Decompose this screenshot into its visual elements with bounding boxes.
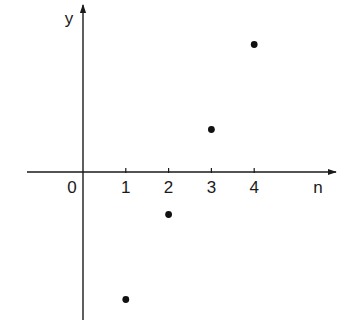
x-tick-label: 2 xyxy=(164,178,173,197)
x-axis-label: n xyxy=(313,178,322,197)
scatter-plot: 1234 0 n y xyxy=(0,0,341,332)
y-axis-label: y xyxy=(65,9,74,28)
x-tick-label: 1 xyxy=(121,178,130,197)
origin-label: 0 xyxy=(67,178,76,197)
data-point xyxy=(165,211,172,218)
data-point xyxy=(251,41,258,48)
x-axis-tick-labels: 1234 xyxy=(121,178,259,197)
x-tick-label: 4 xyxy=(249,178,258,197)
x-tick-label: 3 xyxy=(207,178,216,197)
data-point xyxy=(208,126,215,133)
data-point xyxy=(122,296,129,303)
